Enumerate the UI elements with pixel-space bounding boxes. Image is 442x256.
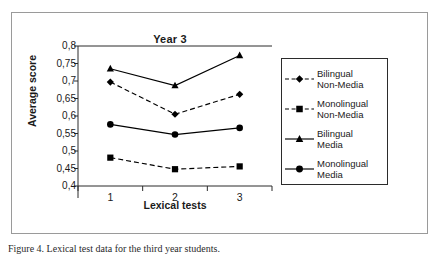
legend-entry[interactable]: BilingualNon-Media xyxy=(282,64,389,94)
legend-label-line2: Non-Media xyxy=(317,109,389,121)
legend-label-line2: Media xyxy=(317,169,389,181)
legend-marker-square-icon xyxy=(282,96,317,122)
legend-label-line1: Bilingual xyxy=(317,68,389,80)
legend-marker-diamond-icon xyxy=(282,66,317,92)
legend-label: MonolingualMedia xyxy=(317,158,389,181)
figure-caption: Figure 4. Lexical test data for the thir… xyxy=(8,243,438,255)
legend-entry[interactable]: MonolingualMedia xyxy=(282,154,389,184)
legend-label-line1: Monolingual xyxy=(317,98,389,110)
legend-label-line2: Non-Media xyxy=(317,79,389,91)
legend-marker-circle-icon xyxy=(282,156,317,182)
legend-label: MonolingualNon-Media xyxy=(317,98,389,121)
legend-label: BilingualMedia xyxy=(317,128,389,151)
x-axis-tick-label: 2 xyxy=(163,192,187,203)
data-point-marker-square xyxy=(296,106,303,113)
legend-entry[interactable]: MonolingualNon-Media xyxy=(282,94,389,124)
legend-label-line1: Monolingual xyxy=(317,158,389,170)
chart-legend: BilingualNon-MediaMonolingualNon-MediaBi… xyxy=(281,58,388,185)
legend-marker-triangle-icon xyxy=(282,126,317,152)
legend-label-line2: Media xyxy=(317,139,389,151)
data-point-marker-circle xyxy=(296,166,303,173)
legend-label: BilingualNon-Media xyxy=(317,68,389,91)
x-axis-tick-label: 3 xyxy=(228,192,252,203)
figure-root: Year 3 Average score Lexical tests 0,80,… xyxy=(0,0,442,256)
legend-label-line1: Bilingual xyxy=(317,128,389,140)
data-point-marker-diamond xyxy=(296,75,304,83)
legend-entry[interactable]: BilingualMedia xyxy=(282,124,389,154)
x-axis-tick-label: 1 xyxy=(98,192,122,203)
